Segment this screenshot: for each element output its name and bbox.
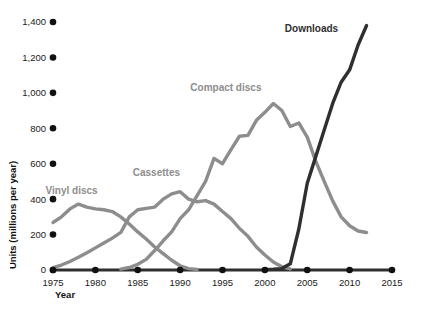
y-tick-label: 1,400 bbox=[22, 16, 46, 27]
y-tick-dot bbox=[50, 90, 57, 97]
x-tick-dot bbox=[134, 267, 141, 274]
y-axis-ticks: 02004006008001,0001,2001,400 bbox=[22, 16, 56, 275]
y-axis-title: Units (millions per year) bbox=[7, 161, 18, 269]
x-tick-label: 1980 bbox=[85, 277, 106, 288]
x-tick-label: 1975 bbox=[42, 277, 63, 288]
y-tick-dot bbox=[50, 160, 57, 167]
y-tick-dot bbox=[50, 54, 57, 61]
y-tick-dot bbox=[50, 231, 57, 238]
x-tick-dot bbox=[346, 267, 353, 274]
series-label-cassettes: Cassettes bbox=[133, 167, 181, 178]
x-tick-label: 1995 bbox=[212, 277, 233, 288]
y-tick-label: 200 bbox=[30, 229, 46, 240]
x-tick-label: 1985 bbox=[127, 277, 148, 288]
series-label-compact-discs: Compact discs bbox=[190, 82, 262, 93]
line-chart: 02004006008001,0001,2001,400 19751980198… bbox=[0, 0, 430, 316]
y-tick-label: 800 bbox=[30, 123, 46, 134]
series-label-downloads: Downloads bbox=[285, 23, 339, 34]
x-axis-title: Year bbox=[55, 289, 75, 300]
y-tick-label: 1,200 bbox=[22, 52, 46, 63]
x-tick-label: 1990 bbox=[170, 277, 191, 288]
y-tick-label: 400 bbox=[30, 194, 46, 205]
chart-plot-area: 02004006008001,0001,2001,400 19751980198… bbox=[0, 0, 430, 316]
x-tick-dot bbox=[92, 267, 99, 274]
x-tick-dot bbox=[304, 267, 311, 274]
x-tick-dot bbox=[177, 267, 184, 274]
x-tick-dot bbox=[389, 267, 396, 274]
x-tick-label: 2015 bbox=[381, 277, 402, 288]
y-tick-label: 0 bbox=[41, 264, 46, 275]
series-label-vinyl-discs: Vinyl discs bbox=[46, 185, 99, 196]
x-tick-dot bbox=[262, 267, 269, 274]
x-axis-ticks: 197519801985199019952000200520102015 bbox=[42, 267, 402, 288]
y-tick-dot bbox=[50, 196, 57, 203]
y-tick-dot bbox=[50, 125, 57, 132]
y-tick-label: 1,000 bbox=[22, 87, 46, 98]
x-tick-dot bbox=[50, 267, 57, 274]
x-tick-label: 2010 bbox=[339, 277, 360, 288]
series-line-downloads bbox=[265, 26, 367, 270]
x-tick-label: 2000 bbox=[254, 277, 275, 288]
y-tick-label: 600 bbox=[30, 158, 46, 169]
series-inline-labels: Vinyl discsCassettesCompact discsDownloa… bbox=[46, 23, 339, 196]
x-tick-label: 2005 bbox=[297, 277, 318, 288]
y-tick-dot bbox=[50, 19, 57, 26]
series-lines bbox=[53, 26, 367, 270]
x-tick-dot bbox=[219, 267, 226, 274]
series-line-compact-discs bbox=[121, 103, 367, 269]
